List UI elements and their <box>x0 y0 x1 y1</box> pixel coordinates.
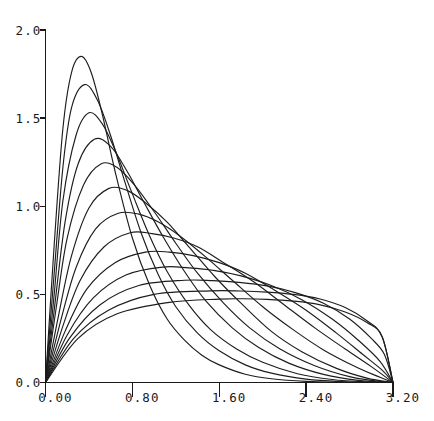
y-tick-label: 0.0 <box>16 375 42 390</box>
x-tick-label: 2.40 <box>299 390 334 405</box>
y-tick-label: 2.0 <box>16 23 42 38</box>
y-axis-tick-labels: 0.00.51.01.52.0 <box>16 23 42 391</box>
x-tick-label: 0.00 <box>38 390 73 405</box>
density-curves-chart: 0.00.51.01.52.0 0.000.801.602.403.20 <box>0 0 434 421</box>
y-tick-label: 1.0 <box>16 199 42 214</box>
x-tick-label: 1.60 <box>212 390 247 405</box>
curve-line <box>46 112 394 382</box>
curve-line <box>46 212 394 382</box>
curve-line <box>46 56 394 382</box>
y-tick-label: 1.5 <box>16 111 42 126</box>
x-axis-tick-labels: 0.000.801.602.403.20 <box>38 390 420 405</box>
chart-plot-area: 0.00.51.01.52.0 0.000.801.602.403.20 <box>0 0 434 421</box>
curve-line <box>46 85 394 383</box>
curve-line <box>46 187 394 382</box>
x-tick-label: 0.80 <box>125 390 160 405</box>
curve-series-group <box>46 56 394 382</box>
curve-line <box>46 280 394 383</box>
x-tick-label: 3.20 <box>386 390 421 405</box>
y-tick-label: 0.5 <box>16 287 42 302</box>
